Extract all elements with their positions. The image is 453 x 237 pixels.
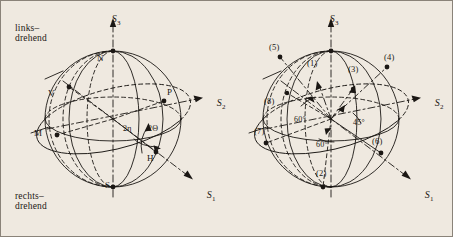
- left-point-H: H: [147, 154, 154, 164]
- poincare-sphere-figure: links– drehend rechts– drehend S3 S2 S1 …: [0, 0, 453, 237]
- right-radius-3: [331, 89, 353, 119]
- right-angle-60-lower: 60°: [316, 141, 328, 150]
- right-axis-s1: [281, 81, 405, 175]
- left-meridian-left: [69, 51, 113, 187]
- right-angle-60-upper: 60°: [294, 116, 306, 125]
- right-axis-s1-arrow: [402, 171, 411, 180]
- left-tilt-circle-back: [45, 70, 195, 151]
- right-tilt-circle-back: [263, 70, 413, 151]
- left-point-M: M: [34, 129, 42, 139]
- right-meridian-right-back: [305, 51, 331, 187]
- links-drehend-label: links– drehend: [15, 23, 47, 44]
- right-point-1: (1): [307, 59, 318, 68]
- left-axis-label-s3: S3: [101, 3, 121, 38]
- left-meridian-wide-back: [63, 51, 113, 187]
- right-axis-label-s1: S1: [414, 179, 434, 214]
- rechts-drehend-label: rechts– drehend: [15, 191, 47, 212]
- sphere-line-art: [1, 1, 453, 237]
- right-axis-label-s3: S3: [319, 3, 339, 38]
- left-point-markers: [55, 49, 167, 190]
- left-meridian-vm: [49, 51, 113, 187]
- right-point-5: (5): [269, 43, 280, 52]
- left-meridian-wide: [113, 51, 163, 187]
- left-axis-s1-arrow: [184, 171, 193, 180]
- left-angle-2theta: 2Θ: [148, 125, 158, 134]
- right-meridian-wide-back: [281, 51, 331, 187]
- left-axis-label-s2: S2: [206, 87, 226, 122]
- left-meridian-right-back: [87, 51, 113, 187]
- left-point-P: P: [167, 88, 172, 98]
- right-point-6: (6): [372, 137, 383, 146]
- right-point-4: (4): [384, 53, 395, 62]
- right-point-3: (3): [348, 65, 359, 74]
- left-meridian-right: [113, 51, 139, 187]
- right-point-2: (2): [316, 169, 327, 178]
- right-axis-s2-arrow: [412, 96, 422, 103]
- left-point-S: S: [105, 181, 110, 191]
- right-angle-45: 45°: [353, 119, 365, 128]
- left-radius-to-m: [57, 119, 113, 135]
- left-axis-label-s1: S1: [196, 179, 216, 214]
- left-point-N: N: [97, 54, 104, 64]
- left-radius-to-v: [69, 87, 113, 119]
- right-point-7: (7): [254, 127, 265, 136]
- left-angle-2eta: 2η: [123, 125, 132, 134]
- right-axis-label-s2: S2: [424, 87, 444, 122]
- left-point-V: V: [48, 89, 55, 99]
- right-radius-4: [331, 67, 387, 119]
- left-axis-s2-arrow: [194, 96, 204, 103]
- right-point-8: (8): [264, 97, 275, 106]
